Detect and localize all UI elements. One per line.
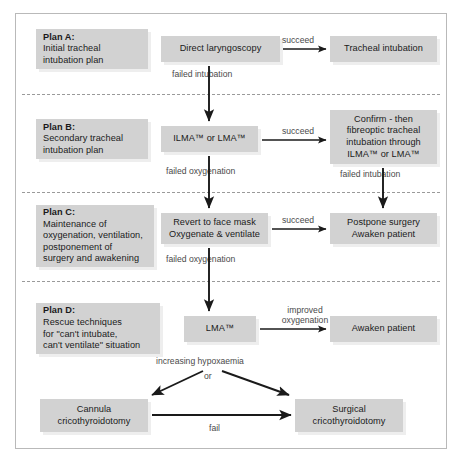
plan-c-line-4: surgery and awakening (43, 253, 139, 265)
edge-label-failed-intubation-a: failed intubation (172, 69, 232, 79)
node-confirm-fibreoptic-line-2: fibreoptic tracheal (347, 125, 420, 137)
edge-label-succeed-b: succeed (282, 126, 314, 136)
plan-d-title: Plan D: (43, 305, 75, 317)
node-lma: LMA™ (184, 316, 256, 342)
plan-c-line-1: Maintenance of (43, 219, 107, 231)
node-surgical-cricothyroidotomy: Surgical cricothyroidotomy (295, 399, 403, 432)
plan-d-line-2: for "can't intubate, (43, 329, 117, 341)
edge-label-improved-oxygenation: improved oxygenation (275, 305, 335, 325)
plan-a-line-1: Initial tracheal (43, 43, 101, 55)
node-revert-face-mask: Revert to face mask Oxygenate & ventilat… (161, 213, 268, 244)
edge-label-failed-intubation-b: failed intubation (340, 169, 400, 179)
node-postpone-surgery-line-1: Postpone surgery (347, 217, 420, 229)
node-cannula-cricothyroidotomy-line-1: Cannula (77, 404, 112, 416)
node-cannula-cricothyroidotomy-line-2: cricothyroidotomy (58, 416, 131, 428)
plan-b-line-1: Secondary tracheal (43, 133, 123, 145)
edge-label-improved-oxygenation-line-2: oxygenation (275, 315, 335, 325)
plan-b-title: Plan B: (43, 122, 75, 134)
node-ilma-or-lma: ILMA™ or LMA™ (161, 126, 258, 152)
node-lma-line-1: LMA™ (206, 323, 234, 335)
plan-b-label-box: Plan B: Secondary tracheal intubation pl… (36, 119, 148, 159)
plan-c-line-2: oxygenation, ventilation, (43, 230, 143, 242)
node-confirm-fibreoptic-line-3: intubation through (346, 137, 420, 149)
plan-c-line-3: postponement of (43, 242, 112, 254)
node-postpone-surgery-line-2: Awaken patient (352, 229, 415, 241)
node-revert-face-mask-line-1: Revert to face mask (173, 217, 256, 229)
edge-label-increasing-hypoxaemia: increasing hypoxaemia (156, 356, 244, 366)
node-direct-laryngoscopy-line-1: Direct laryngoscopy (180, 43, 262, 55)
section-separator-b-c (22, 192, 440, 193)
plan-d-line-1: Rescue techniques (43, 317, 122, 329)
node-revert-face-mask-line-2: Oxygenate & ventilate (169, 229, 260, 241)
node-cannula-cricothyroidotomy: Cannula cricothyroidotomy (40, 399, 148, 432)
plan-b-line-2: intubation plan (43, 145, 104, 157)
node-awaken-patient-line-1: Awaken patient (352, 323, 415, 335)
edge-label-failed-oxygenation-c: failed oxygenation (166, 254, 235, 264)
diagram-canvas: Plan A: Initial tracheal intubation plan… (0, 0, 468, 465)
edge-label-fail: fail (209, 423, 220, 433)
node-tracheal-intubation-line-1: Tracheal intubation (344, 43, 423, 55)
node-tracheal-intubation: Tracheal intubation (330, 36, 437, 62)
edge-label-or: or (204, 371, 212, 381)
plan-c-title: Plan C: (43, 207, 75, 219)
node-awaken-patient: Awaken patient (330, 316, 437, 342)
node-ilma-or-lma-line-1: ILMA™ or LMA™ (173, 133, 246, 145)
node-confirm-fibreoptic-line-4: ILMA™ or LMA™ (347, 149, 420, 161)
edge-label-improved-oxygenation-line-1: improved (275, 305, 335, 315)
node-postpone-surgery: Postpone surgery Awaken patient (330, 213, 437, 244)
node-confirm-fibreoptic-line-1: Confirm - then (354, 114, 413, 126)
edge-label-succeed-a: succeed (282, 35, 314, 45)
node-surgical-cricothyroidotomy-line-2: cricothyroidotomy (313, 416, 386, 428)
section-separator-c-d (22, 281, 440, 282)
edge-label-failed-oxygenation-b: failed oxygenation (166, 166, 235, 176)
section-separator-a-b (22, 94, 440, 95)
node-confirm-fibreoptic: Confirm - then fibreoptic tracheal intub… (330, 110, 437, 164)
node-direct-laryngoscopy: Direct laryngoscopy (161, 36, 280, 62)
plan-c-label-box: Plan C: Maintenance of oxygenation, vent… (36, 205, 154, 267)
plan-d-label-box: Plan D: Rescue techniques for "can't int… (36, 303, 160, 354)
edge-label-succeed-c: succeed (282, 215, 314, 225)
plan-a-line-2: intubation plan (43, 55, 104, 67)
plan-a-title: Plan A: (43, 32, 75, 44)
node-surgical-cricothyroidotomy-line-1: Surgical (332, 404, 366, 416)
plan-a-label-box: Plan A: Initial tracheal intubation plan (36, 29, 148, 69)
plan-d-line-3: can't ventilate" situation (43, 340, 140, 352)
